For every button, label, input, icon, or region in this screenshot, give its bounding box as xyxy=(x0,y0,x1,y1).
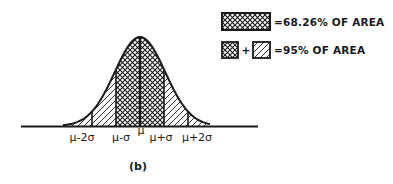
legend-swatch-diagonal xyxy=(253,42,270,58)
axis-label-mu-minus-sigma: μ-σ xyxy=(112,131,130,144)
figure-caption: (b) xyxy=(129,160,147,173)
legend-swatch-crosshatch xyxy=(222,13,270,30)
normal-distribution-figure: μ-2σμ-σμμ+σμ+2σ (b) =68.26% OF AREA + =9… xyxy=(0,0,393,184)
region-between-1-and-2-sigma-left xyxy=(92,35,116,126)
legend-item-68: =68.26% OF AREA xyxy=(222,13,385,30)
axis-label-mu: μ xyxy=(138,124,145,137)
axis-label-mu-minus-2sigma: μ-2σ xyxy=(70,131,95,144)
legend-swatch-crosshatch-small xyxy=(222,42,238,58)
legend-label-68: =68.26% OF AREA xyxy=(274,16,385,28)
region-tail-right xyxy=(188,35,210,126)
region-between-1-and-2-sigma-right xyxy=(164,35,188,126)
legend-label-95: =95% OF AREA xyxy=(274,44,366,56)
legend-plus-sign: + xyxy=(242,44,251,56)
legend: =68.26% OF AREA + =95% OF AREA xyxy=(222,13,385,58)
axis-label-mu-plus-sigma: μ+σ xyxy=(149,131,172,144)
region-tail-left xyxy=(68,35,92,126)
legend-item-95: + =95% OF AREA xyxy=(222,42,366,58)
axis-label-mu-plus-2sigma: μ+2σ xyxy=(182,131,212,144)
